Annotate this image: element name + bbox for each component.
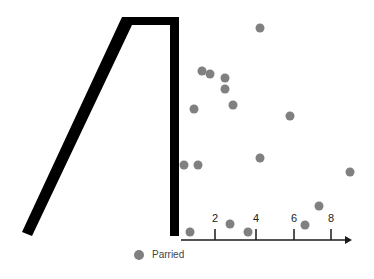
x-tick-label: 6 xyxy=(291,212,297,224)
x-axis xyxy=(181,229,352,244)
data-point xyxy=(256,24,265,33)
data-point xyxy=(190,105,199,114)
black-overlay-shape xyxy=(22,17,179,236)
data-point xyxy=(286,112,295,121)
data-point xyxy=(301,221,310,230)
scatter-points xyxy=(180,24,355,237)
data-point xyxy=(198,67,207,76)
legend-label: Parried xyxy=(152,249,184,260)
data-point xyxy=(186,228,195,237)
legend: Parried xyxy=(134,249,184,260)
data-point xyxy=(180,161,189,170)
data-point xyxy=(206,70,215,79)
data-point xyxy=(221,74,230,83)
data-point xyxy=(229,101,238,110)
data-point xyxy=(221,85,230,94)
data-point xyxy=(244,228,253,237)
data-point xyxy=(346,168,355,177)
legend-dot-icon xyxy=(134,250,144,260)
data-point xyxy=(315,202,324,211)
data-point xyxy=(256,154,265,163)
data-point xyxy=(194,161,203,170)
x-tick-label: 4 xyxy=(253,212,259,224)
data-point xyxy=(226,220,235,229)
x-tick-label: 2 xyxy=(212,212,218,224)
x-tick-label: 8 xyxy=(328,212,334,224)
chart-canvas xyxy=(0,0,374,279)
